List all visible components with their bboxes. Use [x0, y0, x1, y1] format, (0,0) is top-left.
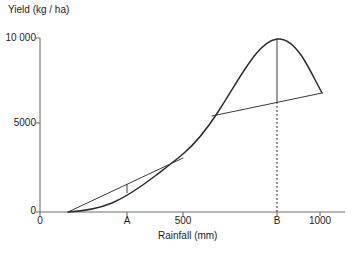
x-axis-title: Rainfall (mm)	[158, 231, 217, 241]
secant-line-left	[68, 158, 183, 212]
y-tick-label-5000: 5000	[0, 118, 36, 128]
x-tick-label-0: 0	[32, 216, 48, 226]
x-tick-label-1000: 1000	[303, 216, 337, 226]
x-tick-label-B: B	[269, 216, 285, 226]
y-axis-title: Yield (kg / ha)	[8, 5, 69, 15]
x-tick-label-A: A	[119, 216, 135, 226]
y-tick-label-10000: 10 000	[0, 33, 36, 43]
yield-curve	[68, 39, 322, 212]
x-tick-label-500: 500	[168, 216, 198, 226]
y-tick-label-0: 0	[0, 206, 36, 216]
chart-figure: Yield (kg / ha) Rainfall (mm) 10 000 500…	[0, 0, 359, 254]
